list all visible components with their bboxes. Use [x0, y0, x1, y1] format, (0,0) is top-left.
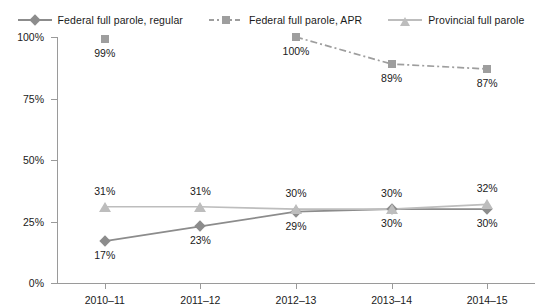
data-label: 30%	[270, 187, 322, 199]
legend-item-label: Provincial full parole	[428, 14, 524, 26]
square-marker	[292, 33, 300, 41]
triangle-marker	[290, 204, 302, 214]
square-marker	[388, 60, 396, 68]
line-chart: Federal full parole, regularFederal full…	[0, 0, 542, 306]
data-label: 100%	[270, 45, 322, 57]
triangle-marker	[386, 204, 398, 214]
data-label: 29%	[270, 220, 322, 232]
data-label: 30%	[366, 217, 418, 229]
legend-item-label: Federal full parole, regular	[58, 14, 183, 26]
data-label: 31%	[79, 185, 131, 197]
square-marker	[483, 65, 491, 73]
data-label: 32%	[461, 182, 513, 194]
x-tick-label: 2013–14	[357, 294, 427, 306]
legend-item-2[interactable]: Federal full parole, APR	[209, 13, 362, 27]
plot-area: 0%25%50%75%100% 2010–112011–122012–13201…	[0, 32, 542, 284]
chart-legend: Federal full parole, regularFederal full…	[0, 10, 542, 30]
legend-key	[388, 13, 422, 27]
x-tick-label: 2014–15	[452, 294, 522, 306]
series-lines	[0, 32, 542, 284]
data-label: 87%	[461, 77, 513, 89]
legend-item-label: Federal full parole, APR	[249, 14, 362, 26]
triangle-marker	[99, 202, 111, 212]
x-tick-label: 2011–12	[165, 294, 235, 306]
legend-key	[18, 13, 52, 27]
triangle-marker	[481, 199, 493, 209]
legend-item-1[interactable]: Federal full parole, regular	[18, 13, 183, 27]
data-label: 89%	[366, 72, 418, 84]
x-tick-label: 2010–11	[70, 294, 140, 306]
triangle-marker	[400, 17, 410, 26]
legend-key	[209, 13, 243, 27]
diamond-marker	[29, 14, 40, 25]
legend-item-3[interactable]: Provincial full parole	[388, 13, 524, 27]
data-label: 23%	[174, 234, 226, 246]
triangle-marker	[194, 202, 206, 212]
square-marker	[101, 35, 109, 43]
data-label: 30%	[366, 187, 418, 199]
data-label: 31%	[174, 185, 226, 197]
x-tick-label: 2012–13	[261, 294, 331, 306]
data-label: 17%	[79, 249, 131, 261]
data-label: 30%	[461, 217, 513, 229]
square-marker	[222, 16, 230, 24]
data-label: 99%	[79, 47, 131, 59]
